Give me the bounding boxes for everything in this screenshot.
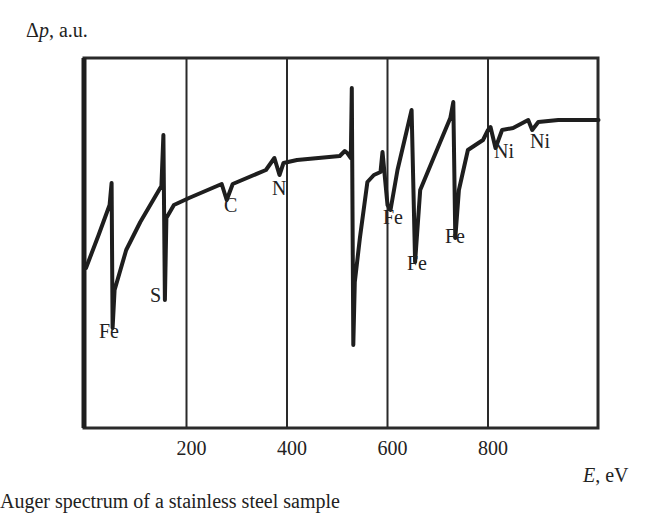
x-tick-label-800: 800 [478, 437, 508, 459]
x-tick-label-200: 200 [177, 437, 207, 459]
peak-label-fe: Fe [407, 252, 427, 274]
grid-lines [187, 58, 489, 428]
spectrum-curve [86, 88, 599, 345]
peak-label-s: S [150, 284, 161, 306]
x-axis-var: E [583, 464, 595, 486]
peak-label-n: N [272, 177, 286, 199]
figure-caption: Auger spectrum of a stainless steel samp… [0, 490, 340, 513]
peak-label-c: C [224, 194, 237, 216]
x-tick-label-400: 400 [277, 437, 307, 459]
peak-label-ni: Ni [494, 140, 514, 162]
x-axis-label: E, eV [583, 464, 629, 487]
plot-frame [84, 58, 598, 428]
x-tick-labels: 200400600800 [177, 437, 509, 459]
peak-label-fe: Fe [99, 320, 119, 342]
x-axis-unit: , eV [595, 464, 628, 486]
peak-label-ni: Ni [530, 130, 550, 152]
x-tick-label-600: 600 [378, 437, 408, 459]
peak-label-fe: Fe [383, 206, 403, 228]
peak-label-fe: Fe [445, 225, 465, 247]
